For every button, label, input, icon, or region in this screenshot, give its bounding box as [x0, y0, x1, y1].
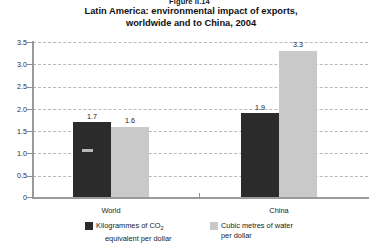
legend-label-co2-line2: equivalent per dollar	[105, 234, 172, 243]
legend-label-co2-line1: Kilogrammes of CO	[96, 221, 160, 230]
y-label-3-0: 3.0	[1, 61, 27, 68]
y-tick-0	[27, 197, 34, 198]
y-label-0-5: 0.5	[1, 172, 27, 179]
value-label-world-co2: 1.7	[73, 113, 111, 121]
gridline-2-0	[33, 109, 368, 110]
legend-item-co2[interactable]: Kilogrammes of CO2equivalent per dollar	[85, 221, 172, 243]
bar-chart: 1.7 1.6 1.9 3.3 3.5 3.0 2.5 2.0 1.5 1.0 …	[0, 36, 379, 204]
y-label-3-5: 3.5	[1, 39, 27, 46]
figure-title-line2: worldwide and to China, 2004	[26, 18, 356, 30]
legend-label-water-line2: per dollar	[221, 231, 252, 240]
bar-china-co2	[241, 113, 279, 198]
y-tick-2-5	[27, 87, 34, 88]
y-tick-3-5	[27, 42, 34, 43]
bar-artifact-mark	[82, 149, 93, 152]
plot-area: 1.7 1.6 1.9 3.3	[33, 42, 368, 198]
legend-label-co2-subscript: 2	[160, 225, 163, 231]
value-label-china-water: 3.3	[279, 41, 317, 49]
legend-swatch-icon-water	[210, 222, 218, 230]
bar-world-water	[111, 127, 149, 198]
y-tick-0-5	[27, 176, 34, 177]
value-label-china-co2: 1.9	[241, 104, 279, 112]
y-tick-2-0	[27, 109, 34, 110]
figure-title-line1: Latin America: environmental impact of e…	[84, 6, 297, 16]
y-tick-3-0	[27, 64, 34, 65]
legend-item-water[interactable]: Cubic metres of waterper dollar	[210, 221, 293, 240]
legend-label-co2: Kilogrammes of CO2equivalent per dollar	[96, 221, 172, 243]
category-label-china: China	[241, 206, 317, 215]
y-label-1-0: 1.0	[1, 150, 27, 157]
gridline-3-0	[33, 64, 368, 65]
bar-world-co2	[73, 122, 111, 198]
legend-label-water-line1: Cubic metres of water	[221, 221, 293, 230]
figure-title: Latin America: environmental impact of e…	[26, 6, 356, 29]
y-label-1-5: 1.5	[1, 128, 27, 135]
legend-swatch-icon-co2	[85, 222, 93, 230]
gridline-3-5	[33, 42, 368, 43]
y-label-2-0: 2.0	[1, 106, 27, 113]
y-tick-1-0	[27, 153, 34, 154]
y-label-0: 0	[1, 194, 27, 201]
value-label-world-water: 1.6	[111, 117, 149, 125]
category-label-world: World	[73, 206, 149, 215]
x-axis-line	[32, 197, 369, 199]
chart-legend: Kilogrammes of CO2equivalent per dollar …	[0, 221, 379, 249]
x-axis-group-separator-tick	[199, 193, 200, 198]
gridline-2-5	[33, 87, 368, 88]
bar-china-water	[279, 51, 317, 198]
y-tick-1-5	[27, 131, 34, 132]
legend-label-water: Cubic metres of waterper dollar	[221, 221, 293, 240]
y-label-2-5: 2.5	[1, 83, 27, 90]
